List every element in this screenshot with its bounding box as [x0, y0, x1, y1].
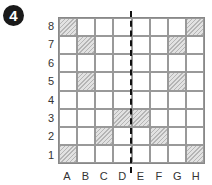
cell-A5: [59, 72, 77, 90]
row-label: 3: [42, 112, 54, 124]
cell-D8: [113, 18, 131, 36]
cell-G7: [168, 36, 186, 54]
cell-G4: [168, 91, 186, 109]
column-label: C: [95, 170, 113, 182]
cell-B5: [77, 72, 95, 90]
cell-B7: [77, 36, 95, 54]
cell-C6: [95, 54, 113, 72]
cell-G1: [168, 145, 186, 163]
cell-F1: [150, 145, 168, 163]
cell-C8: [95, 18, 113, 36]
cell-B6: [77, 54, 95, 72]
cell-A1: [59, 145, 77, 163]
column-label: F: [150, 170, 168, 182]
cell-A3: [59, 109, 77, 127]
column-label: D: [113, 170, 131, 182]
cell-E2: [132, 127, 150, 145]
cell-F5: [150, 72, 168, 90]
cell-D4: [113, 91, 131, 109]
cell-C2: [95, 127, 113, 145]
column-label: G: [168, 170, 186, 182]
cell-F2: [150, 127, 168, 145]
cell-D3: [113, 109, 131, 127]
cell-F6: [150, 54, 168, 72]
cell-B2: [77, 127, 95, 145]
symmetry-line: [130, 11, 132, 173]
cell-F8: [150, 18, 168, 36]
cell-F7: [150, 36, 168, 54]
cell-C1: [95, 145, 113, 163]
cell-A8: [59, 18, 77, 36]
cell-G2: [168, 127, 186, 145]
column-label: A: [58, 170, 76, 182]
cell-D7: [113, 36, 131, 54]
cell-E4: [132, 91, 150, 109]
cell-H1: [186, 145, 204, 163]
cell-F3: [150, 109, 168, 127]
figure-number-badge: 4: [3, 5, 24, 26]
cell-H8: [186, 18, 204, 36]
column-label: E: [132, 170, 150, 182]
cell-C7: [95, 36, 113, 54]
cell-H6: [186, 54, 204, 72]
cell-H3: [186, 109, 204, 127]
cell-D2: [113, 127, 131, 145]
cell-F4: [150, 91, 168, 109]
cell-E8: [132, 18, 150, 36]
cell-A4: [59, 91, 77, 109]
row-label: 5: [42, 75, 54, 87]
cell-A2: [59, 127, 77, 145]
cell-C5: [95, 72, 113, 90]
cell-G8: [168, 18, 186, 36]
cell-H4: [186, 91, 204, 109]
cell-B8: [77, 18, 95, 36]
cell-E3: [132, 109, 150, 127]
cell-H5: [186, 72, 204, 90]
cell-H7: [186, 36, 204, 54]
row-label: 2: [42, 130, 54, 142]
cell-C4: [95, 91, 113, 109]
cell-E6: [132, 54, 150, 72]
cell-H2: [186, 127, 204, 145]
cell-B4: [77, 91, 95, 109]
row-label: 8: [42, 20, 54, 32]
cell-G3: [168, 109, 186, 127]
row-label: 1: [42, 149, 54, 161]
row-label: 4: [42, 94, 54, 106]
cell-A7: [59, 36, 77, 54]
cell-D5: [113, 72, 131, 90]
cell-E1: [132, 145, 150, 163]
cell-A6: [59, 54, 77, 72]
cell-E7: [132, 36, 150, 54]
cell-D1: [113, 145, 131, 163]
cell-G5: [168, 72, 186, 90]
cell-C3: [95, 109, 113, 127]
column-label: H: [187, 170, 205, 182]
cell-B1: [77, 145, 95, 163]
row-label: 6: [42, 57, 54, 69]
row-label: 7: [42, 38, 54, 50]
cell-G6: [168, 54, 186, 72]
column-label: B: [76, 170, 94, 182]
cell-E5: [132, 72, 150, 90]
cell-B3: [77, 109, 95, 127]
cell-D6: [113, 54, 131, 72]
